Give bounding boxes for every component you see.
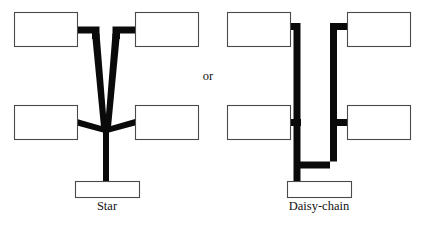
topology-diagram: or Star Daisy-chain	[0, 0, 423, 226]
conjunction-or-label: or	[193, 69, 223, 84]
daisy-node-top-right	[348, 13, 411, 47]
star-node-top-left	[15, 13, 78, 47]
daisy-node-mid-right	[348, 106, 411, 140]
daisy-node-hub	[288, 182, 352, 198]
star-link-top-right-diagonal	[105, 34, 120, 128]
star-link-hub-stem	[103, 126, 109, 182]
star-link-mid-left	[77, 119, 103, 133]
star-topology-group	[15, 13, 199, 198]
star-node-hub	[76, 182, 140, 198]
star-link-top-left-diagonal	[92, 34, 107, 128]
star-node-mid-left	[15, 106, 78, 140]
daisy-chain-topology-group	[228, 13, 411, 198]
daisy-chain-caption: Daisy-chain	[274, 199, 364, 214]
star-node-mid-right	[136, 106, 199, 140]
daisy-link-mid-left-tee	[290, 119, 301, 126]
daisy-link-right-bus	[296, 23, 347, 169]
daisy-node-mid-left	[228, 106, 291, 140]
daisy-link-mid-right-tee	[336, 119, 347, 126]
daisy-link-left-bus	[290, 23, 301, 182]
star-node-top-right	[136, 13, 199, 47]
topology-svg	[0, 0, 423, 226]
daisy-node-top-left	[228, 13, 291, 47]
star-link-mid-right	[109, 119, 135, 133]
star-caption: Star	[62, 199, 152, 214]
